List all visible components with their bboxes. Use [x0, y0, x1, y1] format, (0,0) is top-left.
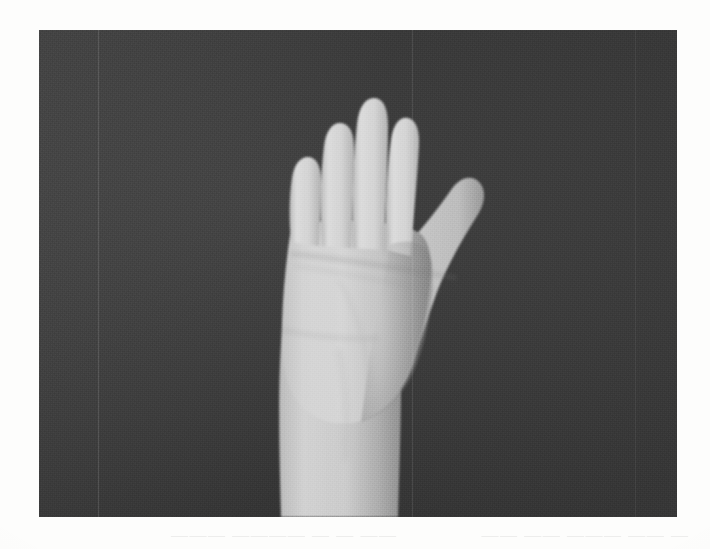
show-through-text-left: — —— ——— —— ——: [480, 525, 688, 545]
ring-finger-shape: [321, 123, 354, 248]
middle-finger-shape: [353, 98, 388, 250]
show-through-text-right: —— — — ———— ———: [170, 525, 397, 545]
hand-photograph: [39, 30, 677, 517]
hand-subject: [39, 30, 677, 517]
scanned-page: — —— ——— —— —— —— — — ———— ———: [0, 0, 710, 549]
show-through-text: — —— ——— —— —— —— — — ———— ———: [22, 524, 688, 546]
little-finger-shape: [290, 157, 321, 246]
